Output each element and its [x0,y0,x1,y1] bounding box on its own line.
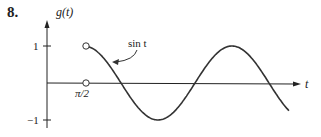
chart-plot [0,0,321,137]
